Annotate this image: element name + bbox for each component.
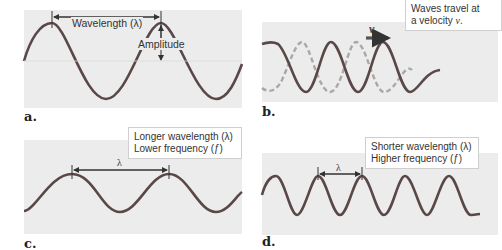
panel-d-callout-line1: Shorter wavelength (λ): [371, 141, 473, 153]
panel-c-lambda: λ: [117, 157, 122, 168]
panel-d-lambda: λ: [336, 162, 341, 173]
callout-text: a velocity: [411, 15, 455, 26]
callout-period: .: [460, 15, 463, 26]
panel-c-callout: Longer wavelength (λ) Lower frequency (ƒ…: [128, 127, 242, 159]
panel-d-wave: [262, 176, 480, 215]
panel-b-callout-line1: Waves travel at: [411, 3, 496, 15]
amplitude-label: Amplitude: [138, 38, 185, 50]
panel-c-callout-line2: Lower frequency (ƒ): [134, 143, 236, 155]
panel-b-callout: Waves travel at a velocity v.: [405, 0, 502, 31]
panel-c-wave: [24, 174, 242, 212]
panel-b-label: b.: [262, 104, 276, 119]
panel-d-callout-line2: Higher frequency (ƒ): [371, 153, 473, 165]
panel-d-label: d.: [262, 234, 276, 249]
panel-b-callout-line2: a velocity v.: [411, 15, 496, 27]
panel-a-label: a.: [24, 109, 37, 124]
velocity-symbol: v: [369, 22, 374, 37]
panel-c-label: c.: [24, 236, 36, 250]
panel-c-callout-line1: Longer wavelength (λ): [134, 131, 236, 143]
panel-d-callout: Shorter wavelength (λ) Higher frequency …: [365, 137, 479, 169]
wavelength-label: Wavelength (λ): [71, 17, 143, 29]
